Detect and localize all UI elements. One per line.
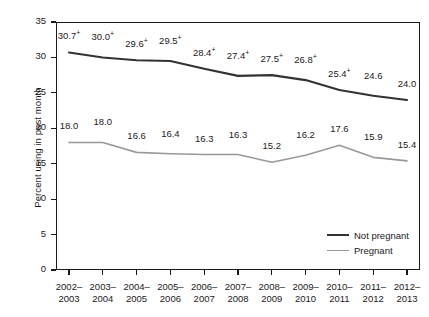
data-point-label: 17.6 — [330, 123, 349, 134]
legend-label: Not pregnant — [354, 230, 409, 241]
data-point-label: 25.4+ — [328, 68, 351, 79]
data-point-label: 18.0 — [94, 116, 113, 127]
x-axis-tick-mark — [68, 270, 69, 275]
data-point-label: 26.8+ — [294, 54, 317, 65]
significance-marker: + — [313, 53, 317, 60]
chart-legend: Not pregnantPregnant — [327, 228, 419, 258]
data-point-label: 16.3 — [229, 129, 248, 140]
significance-marker: + — [211, 46, 215, 53]
legend-item: Not pregnant — [327, 228, 419, 242]
data-point-label: 29.5+ — [159, 35, 182, 46]
x-axis-tick-mark — [305, 270, 306, 275]
y-axis-tick-label: 0 — [41, 263, 46, 274]
y-axis-tick-label: 30 — [35, 50, 46, 61]
data-point-label: 30.7+ — [58, 30, 81, 41]
significance-marker: + — [144, 37, 148, 44]
data-point-label: 30.0+ — [92, 31, 115, 42]
legend-swatch — [327, 234, 349, 236]
significance-marker: + — [178, 34, 182, 41]
data-point-label: 15.9 — [364, 131, 383, 142]
x-axis-tick-mark — [204, 270, 205, 275]
data-point-label: 24.0 — [398, 78, 417, 89]
x-axis-tick-mark — [373, 270, 374, 275]
y-axis-tick-label: 35 — [35, 15, 46, 26]
legend-swatch — [327, 250, 349, 251]
significance-marker: + — [279, 52, 283, 59]
legend-label: Pregnant — [354, 245, 393, 256]
x-axis-tick-mark — [136, 270, 137, 275]
x-axis-tick-mark — [406, 270, 407, 275]
data-point-label: 16.3 — [195, 133, 214, 144]
x-axis-tick-mark — [339, 270, 340, 275]
significance-marker: + — [245, 49, 249, 56]
x-axis-tick-mark — [237, 270, 238, 275]
data-point-label: 28.4+ — [193, 47, 216, 58]
data-point-label: 24.6 — [364, 70, 383, 81]
data-point-label: 27.4+ — [227, 50, 250, 61]
x-axis-tick-mark — [102, 270, 103, 275]
data-point-label: 16.2 — [296, 129, 315, 140]
data-point-label: 15.4 — [398, 139, 417, 150]
significance-marker: + — [76, 29, 80, 36]
data-point-label: 16.4 — [161, 128, 180, 139]
y-axis-tick-label: 0 — [41, 192, 46, 203]
data-point-label: 18.0 — [60, 120, 79, 131]
significance-marker: + — [347, 67, 351, 74]
x-axis-tick-mark — [170, 270, 171, 275]
legend-item: Pregnant — [327, 243, 419, 257]
data-point-label: 16.6 — [127, 130, 146, 141]
y-axis-tick-label: 15 — [35, 157, 46, 168]
y-axis-tick-label: 5 — [41, 228, 46, 239]
y-axis-tick-label: 25 — [35, 86, 46, 97]
data-point-label: 15.2 — [263, 140, 282, 151]
chart-figure: Percent using in past month 050152025303… — [0, 0, 429, 317]
x-axis-tick-label: 2012–2013 — [381, 281, 429, 304]
data-point-label: 27.5+ — [261, 53, 284, 64]
y-axis-tick-label: 20 — [35, 121, 46, 132]
x-axis-tick-mark — [271, 270, 272, 275]
data-point-label: 29.6+ — [125, 38, 148, 49]
significance-marker: + — [110, 30, 114, 37]
